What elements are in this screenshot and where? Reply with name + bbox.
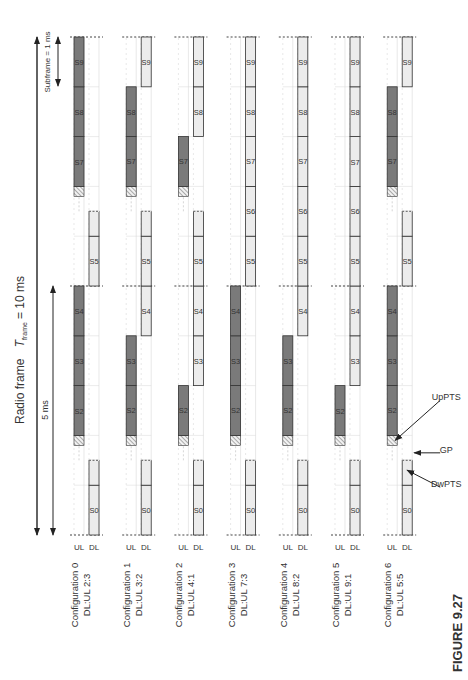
dwpts-block (402, 460, 412, 485)
subframe-label: S7 (179, 158, 188, 167)
subframe-label: S6 (298, 207, 307, 216)
configuration-name: Configuration 1 (121, 563, 132, 627)
subframe-label: S5 (350, 257, 359, 266)
subframe-label: S9 (246, 58, 255, 67)
configuration-ratio: DL:UL 8:2 (290, 574, 301, 616)
dwpts-block (350, 460, 360, 485)
subframe-label: S8 (388, 108, 397, 117)
configuration-name: Configuration 6 (382, 563, 393, 627)
subframe-label: S2 (179, 407, 188, 416)
subframe-label: S9 (142, 58, 151, 67)
configuration-ratio: DL:UL 3:2 (133, 574, 144, 616)
uppts-block (231, 435, 241, 445)
subframe-label: S4 (298, 307, 307, 316)
configuration-ratio: DL:UL 4:1 (185, 574, 196, 616)
subframe-label: S3 (350, 357, 359, 366)
subframe-label: S9 (350, 58, 359, 67)
subframe-label: S4 (142, 307, 151, 316)
dl-lane-label: DL (402, 543, 413, 552)
subframe-label: S4 (231, 307, 240, 316)
ul-lane-label: UL (178, 543, 189, 552)
ul-lane-label: UL (283, 543, 294, 552)
uppts-block (126, 186, 136, 196)
dl-lane-label: DL (350, 543, 361, 552)
subframe-label: S0 (142, 506, 151, 515)
subframe-label: S0 (246, 506, 255, 515)
dwpts-block (141, 460, 151, 485)
subframe-label: S0 (89, 506, 98, 515)
subframe-label: S2 (283, 407, 292, 416)
uppts-block (74, 186, 84, 196)
uppts-block (74, 435, 84, 445)
subframe-label: S0 (350, 506, 359, 515)
dwpts-block (193, 460, 203, 485)
subframe-label: S0 (403, 506, 412, 515)
configuration-row-2: ULDLConfiguration 2DL:UL 4:1S0S2S3S4S5S7… (173, 37, 207, 627)
ul-lane-label: UL (74, 543, 85, 552)
ul-lane-label: UL (335, 543, 346, 552)
uppts-block (387, 186, 397, 196)
subframe-label: S3 (127, 357, 136, 366)
subframe-label: S7 (388, 158, 397, 167)
gp-label: GP (440, 445, 453, 455)
subframe-label: S8 (350, 108, 359, 117)
dl-lane-label: DL (193, 543, 204, 552)
configuration-row-3: ULDLConfiguration 3DL:UL 7:3S0S2S3S4S5S6… (226, 37, 260, 627)
dwpts-block (402, 211, 412, 236)
subframe-label: S4 (388, 307, 397, 316)
subframe-label: S8 (246, 108, 255, 117)
configuration-ratio: DL:UL 9:1 (342, 574, 353, 616)
ul-lane-label: UL (230, 543, 241, 552)
subframe-label: S2 (74, 407, 83, 416)
subframe-label: S2 (231, 407, 240, 416)
dl-lane-label: DL (245, 543, 256, 552)
subframe-label: S8 (298, 108, 307, 117)
ul-lane-label: UL (387, 543, 398, 552)
subframe-label: Subframe = 1 ms (43, 31, 52, 92)
uppts-block (335, 435, 345, 445)
dwpts-block (89, 211, 99, 236)
diagram-canvas: Radio frame Tframe= 10 ms 5 ms Subframe … (0, 0, 468, 680)
uppts-block (178, 435, 188, 445)
subframe-label: S4 (350, 307, 359, 316)
subframe-label: S2 (335, 407, 344, 416)
subframe-label: S2 (388, 407, 397, 416)
dwpts-block (193, 211, 203, 236)
subframe-label: S9 (403, 58, 412, 67)
ul-lane-label: UL (126, 543, 137, 552)
subframe-label: S3 (388, 357, 397, 366)
subframe-label: S6 (246, 207, 255, 216)
subframe-label: S4 (74, 307, 83, 316)
uppts-block (178, 186, 188, 196)
subframe-label: S3 (194, 357, 203, 366)
subframe-label: S7 (127, 158, 136, 167)
figure-caption: FIGURE 9.27 (450, 594, 465, 672)
dl-lane-label: DL (141, 543, 152, 552)
dwpts-block (246, 460, 256, 485)
configuration-name: Configuration 5 (330, 563, 341, 627)
subframe-label: S5 (403, 257, 412, 266)
dwpts-block (298, 460, 308, 485)
configuration-name: Configuration 0 (69, 563, 80, 627)
subframe-label: S7 (74, 158, 83, 167)
dwpts-label: DwPTS (431, 479, 462, 489)
subframe-label: S7 (350, 158, 359, 167)
subframe-label: S5 (298, 257, 307, 266)
configuration-ratio: DL:UL 2:3 (81, 574, 92, 616)
configuration-row-5: ULDLConfiguration 5DL:UL 9:1S0S2S3S4S5S6… (330, 37, 364, 627)
subframe-label: S0 (194, 506, 203, 515)
configuration-row-6: ULDLConfiguration 6DL:UL 5:5S0S2S3S4S5S7… (382, 37, 416, 627)
subframe-label: S8 (194, 108, 203, 117)
subframe-label: S3 (231, 357, 240, 366)
subframe-label: S8 (127, 108, 136, 117)
subframe-label: S5 (194, 257, 203, 266)
dwpts-block (89, 460, 99, 485)
subframe-label: S5 (142, 257, 151, 266)
dl-lane-label: DL (298, 543, 309, 552)
subframe-label: S6 (350, 207, 359, 216)
configuration-row-4: ULDLConfiguration 4DL:UL 8:2S0S2S3S4S5S6… (278, 37, 312, 627)
subframe-label: S0 (298, 506, 307, 515)
subframe-label: S2 (127, 407, 136, 416)
radio-frame-header: Radio frame Tframe= 10 ms 5 ms Subframe … (13, 31, 58, 535)
subframe-label: S4 (194, 307, 203, 316)
